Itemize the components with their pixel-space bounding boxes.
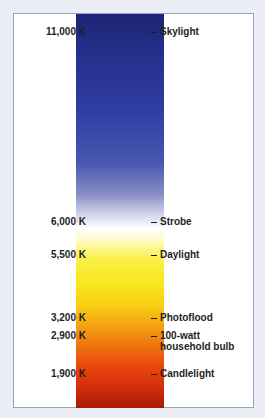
tick-mark xyxy=(151,222,157,224)
source-label-candlelight: Candlelight xyxy=(151,368,214,379)
tick-mark xyxy=(151,255,157,257)
tick-mark xyxy=(151,32,157,34)
source-label-strobe: Strobe xyxy=(151,216,192,227)
source-label-daylight: Daylight xyxy=(151,249,199,260)
temp-label-1900: 1,900 K xyxy=(51,368,86,379)
temp-label-3200: 3,200 K xyxy=(51,312,86,323)
tick-mark xyxy=(151,318,157,320)
tick-mark xyxy=(151,374,157,376)
source-label-skylight: Skylight xyxy=(151,26,199,37)
temp-label-11000: 11,000 K xyxy=(46,26,86,37)
temp-label-2900: 2,900 K xyxy=(51,330,86,341)
source-label-photoflood: Photoflood xyxy=(151,312,213,323)
tick-mark xyxy=(151,336,157,338)
temp-label-5500: 5,500 K xyxy=(51,249,86,260)
source-label-household-bulb: 100-watthousehold bulb xyxy=(151,330,234,352)
temp-label-6000: 6,000 K xyxy=(51,216,86,227)
